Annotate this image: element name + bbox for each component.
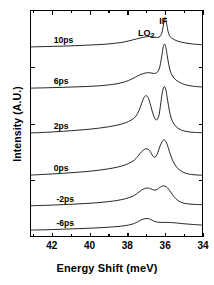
y-tick-2	[199, 180, 204, 181]
trace-label--6ps: -6ps	[56, 218, 74, 228]
x-tick-43	[33, 10, 34, 13]
x-tick-37	[146, 234, 147, 237]
trace-label--2ps: -2ps	[56, 194, 74, 204]
x-tick-36	[165, 10, 166, 15]
x-axis-title: Energy Shift (meV)	[0, 262, 214, 274]
y-axis-title: Intensity (A.U.)	[11, 29, 23, 219]
x-tick-36	[165, 233, 166, 238]
spectra-figure: Intensity (A.U.) 4240383634 10ps6ps2ps0p…	[0, 0, 214, 285]
x-tick-43	[33, 234, 34, 237]
lo2-peak-label: LO2	[138, 28, 154, 38]
x-tick-35	[184, 10, 185, 13]
x-tick-34	[203, 233, 204, 238]
y-tick-1	[199, 124, 204, 125]
x-tick-41	[71, 234, 72, 237]
x-tick-label-36: 36	[150, 240, 180, 251]
trace-label-2ps: 2ps	[54, 121, 69, 131]
x-tick-39	[108, 234, 109, 237]
x-tick-label-40: 40	[75, 240, 105, 251]
y-tick-2	[30, 180, 35, 181]
x-tick-38	[127, 233, 128, 238]
x-tick-label-34: 34	[188, 240, 214, 251]
if-peak-label: IF	[159, 16, 167, 26]
x-tick-label-38: 38	[112, 240, 142, 251]
y-tick-0	[199, 67, 204, 68]
x-tick-38	[127, 10, 128, 15]
x-tick-37	[146, 10, 147, 13]
x-tick-42	[52, 10, 53, 15]
x-tick-35	[184, 234, 185, 237]
x-tick-34	[203, 10, 204, 15]
x-tick-41	[71, 10, 72, 13]
x-tick-40	[90, 10, 91, 15]
x-tick-39	[108, 10, 109, 13]
y-tick-1	[30, 124, 35, 125]
y-tick-0	[30, 67, 35, 68]
trace-label-10ps: 10ps	[54, 35, 74, 45]
trace-label-6ps: 6ps	[54, 76, 69, 86]
x-tick-label-42: 42	[37, 240, 67, 251]
x-tick-42	[52, 233, 53, 238]
x-tick-40	[90, 233, 91, 238]
trace-label-0ps: 0ps	[54, 163, 69, 173]
